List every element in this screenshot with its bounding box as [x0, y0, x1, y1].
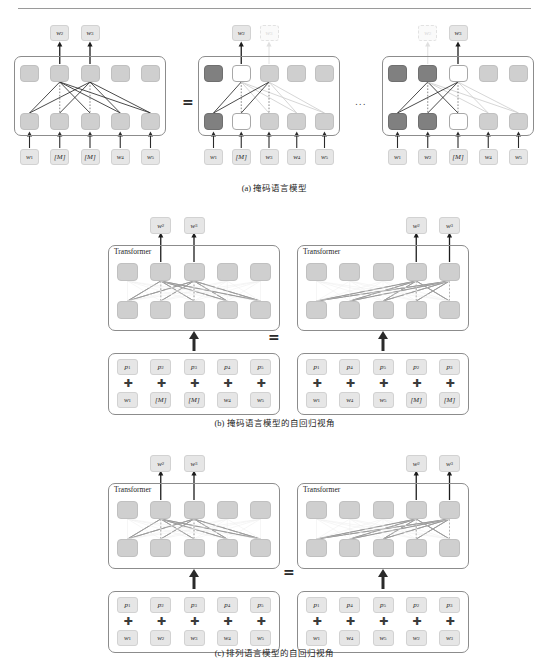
mlm-joint-input-chip: w5 [141, 149, 160, 165]
plm-ar-left-token-chip: w1 [117, 630, 138, 646]
mlm-joint-output-chip: w2 [50, 25, 69, 41]
plm-ar-left-position-chip: p2 [150, 597, 171, 613]
mlm-factor-1-input-chip: w4 [287, 149, 306, 165]
mlm-ar-left-top-cell [117, 263, 138, 281]
caption-c: (c) 排列语言模型的自回归视角 [0, 646, 549, 658]
plm-ar-right-plus-icon: ✚ [412, 616, 421, 627]
mlm-ar-left-position-chip: p2 [150, 359, 171, 375]
mlm-factor-2-bottom-cell [388, 113, 407, 130]
mlm-ar-left-top-cell [250, 263, 271, 281]
mlm-ar-left-output-chip: w2 [150, 217, 171, 234]
plm-ar-left-position-chip: p3 [184, 597, 205, 613]
plm-ar-left-top-cell [150, 501, 171, 519]
plm-ar-right-output-chip: w2 [406, 455, 427, 472]
plm-ar-right-bottom-cell [406, 539, 427, 557]
plm-ar-left-plus-icon: ✚ [190, 616, 199, 627]
mlm-ar-right-transformer-label: Transformer [302, 247, 341, 256]
mlm-ar-right-token-chip: [M] [406, 392, 427, 408]
mlm-factor-2-top-cell [479, 65, 498, 82]
plm-ar-left-top-cell [184, 501, 205, 519]
mlm-ar-right-plus-icon: ✚ [313, 378, 322, 389]
plm-ar-right-token-chip: w1 [306, 630, 327, 646]
mlm-ar-left-plus-icon: ✚ [157, 378, 166, 389]
mlm-ar-right-top-cell [406, 263, 427, 281]
plm-ar-left-top-cell [217, 501, 238, 519]
plm-ar-right-top-cell [373, 501, 394, 519]
plm-ar-left-plus-icon: ✚ [223, 616, 232, 627]
mlm-factor-1-bottom-cell [287, 113, 306, 130]
mlm-joint-top-cell [20, 65, 39, 82]
mlm-ar-left-token-chip: [M] [150, 392, 171, 408]
plm-ar-right-top-cell [339, 501, 360, 519]
mlm-ar-right-plus-icon: ✚ [446, 378, 455, 389]
mlm-ar-left-transformer-label: Transformer [113, 247, 152, 256]
equals-sign-b: = [268, 330, 280, 344]
mlm-joint-input-chip: [M] [81, 149, 100, 165]
mlm-joint-bottom-cell [141, 113, 160, 130]
plm-ar-left-token-chip: w3 [184, 630, 205, 646]
plm-ar-left-position-chip: p5 [250, 597, 271, 613]
figure-c: Transformerw2w3p1✚w1p2✚w2p3✚w3p4✚w4p5✚w5… [0, 443, 549, 643]
caption-a: (a) 掩码语言模型 [0, 181, 549, 193]
plm-ar-right-bottom-cell [439, 539, 460, 557]
mlm-ar-left-bottom-cell [184, 301, 205, 319]
mlm-joint-bottom-cell [81, 113, 100, 130]
mlm-ar-right-position-chip: p5 [373, 359, 394, 375]
equals-sign-c: = [283, 565, 295, 579]
mlm-joint-input-chip: w4 [111, 149, 130, 165]
mlm-ar-right-bottom-cell [406, 301, 427, 319]
mlm-ar-left-top-cell [217, 263, 238, 281]
plm-ar-left-transformer-label: Transformer [113, 485, 152, 494]
plm-ar-right-bottom-cell [306, 539, 327, 557]
mlm-ar-right-bottom-cell [439, 301, 460, 319]
mlm-joint-bottom-cell [20, 113, 39, 130]
mlm-ar-right-top-cell [339, 263, 360, 281]
mlm-ar-right-bottom-cell [373, 301, 394, 319]
plm-ar-left-output-chip: w3 [184, 455, 205, 472]
mlm-ar-left-output-chip: w3 [184, 217, 205, 234]
mlm-joint-input-chip: w1 [20, 149, 39, 165]
mlm-ar-right-bottom-cell [306, 301, 327, 319]
mlm-ar-left-bottom-cell [117, 301, 138, 319]
mlm-factor-2-top-cell [388, 65, 407, 82]
mlm-ar-left-bottom-cell [150, 301, 171, 319]
mlm-factor-1-input-chip: w3 [260, 149, 279, 165]
plm-ar-left-plus-icon: ✚ [124, 616, 133, 627]
mlm-ar-left-position-chip: p1 [117, 359, 138, 375]
mlm-factor-2-top-cell [449, 65, 468, 82]
mlm-joint-bottom-cell [50, 113, 69, 130]
mlm-factor-2-input-chip: w2 [418, 149, 437, 165]
mlm-ar-left-bottom-cell [250, 301, 271, 319]
mlm-factor-1-top-cell [287, 65, 306, 82]
mlm-ar-left-token-chip: w5 [250, 392, 271, 408]
plm-ar-right-position-chip: p1 [306, 597, 327, 613]
mlm-ar-left-plus-icon: ✚ [223, 378, 232, 389]
plm-ar-right-token-chip: w3 [439, 630, 460, 646]
plm-ar-right-plus-icon: ✚ [346, 616, 355, 627]
plm-ar-left-output-chip: w2 [150, 455, 171, 472]
plm-ar-right-token-chip: w4 [339, 630, 360, 646]
mlm-factor-2-input-chip: w5 [509, 149, 528, 165]
mlm-factor-2-input-chip: [M] [449, 149, 468, 165]
figure-page: w1[M][M]w4w5w2w3w1[M]w3w4w5w2w3w1w2[M]w4… [0, 0, 549, 665]
mlm-joint-top-cell [111, 65, 130, 82]
equals-sign-a: = [182, 95, 194, 109]
mlm-joint-top-cell [141, 65, 160, 82]
mlm-factor-1-bottom-cell [232, 113, 251, 130]
plm-ar-right-position-chip: p4 [339, 597, 360, 613]
mlm-ar-right-top-cell [373, 263, 394, 281]
mlm-ar-right-token-chip: w4 [339, 392, 360, 408]
plm-ar-right-top-cell [406, 501, 427, 519]
mlm-ar-right-top-cell [306, 263, 327, 281]
mlm-ar-left-token-chip: w1 [117, 392, 138, 408]
plm-ar-right-top-cell [439, 501, 460, 519]
mlm-factor-2-input-chip: w4 [479, 149, 498, 165]
mlm-factor-2-output-chip: w3 [449, 25, 468, 41]
mlm-ar-right-top-cell [439, 263, 460, 281]
mlm-ar-left-plus-icon: ✚ [257, 378, 266, 389]
plm-ar-left-token-chip: w5 [250, 630, 271, 646]
mlm-factor-2-top-cell [418, 65, 437, 82]
plm-ar-right-plus-icon: ✚ [379, 616, 388, 627]
plm-ar-left-position-chip: p4 [217, 597, 238, 613]
mlm-ar-left-position-chip: p3 [184, 359, 205, 375]
